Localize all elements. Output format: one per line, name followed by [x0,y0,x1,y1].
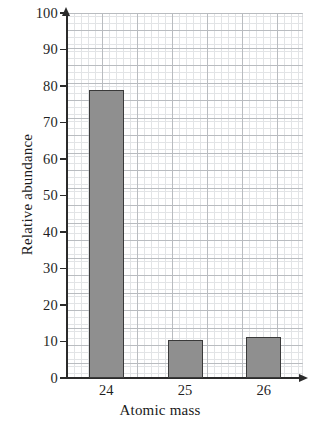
x-axis-arrow-icon [299,374,308,382]
y-axis-tick-label: 20 [43,298,58,313]
y-axis-tick [60,377,67,379]
y-axis-tick-label: 90 [43,42,58,57]
y-axis-tick [60,158,67,160]
y-axis-tick-label: 40 [43,225,58,240]
y-axis-tick-label: 80 [43,79,58,94]
y-axis-tick [60,85,67,87]
x-axis-tick-label: 24 [76,382,136,398]
y-axis-tick-label: 10 [43,334,58,349]
y-axis-tick [60,304,67,306]
bar-25 [168,340,203,378]
y-axis-tick [60,122,67,124]
y-axis-tick [60,231,67,233]
y-axis-tick-label: 30 [43,261,58,276]
y-axis-title: Relative abundance [19,95,36,295]
y-axis-tick [60,49,67,51]
y-axis-line [66,14,68,379]
bar-26 [246,337,281,378]
y-axis-tick-label: 0 [51,371,58,386]
x-axis-tick-label: 25 [155,382,215,398]
bar-chart: 0102030405060708090100 242526 Relative a… [0,0,320,428]
y-axis-tick [60,341,67,343]
y-axis-tick [60,12,67,14]
y-axis-tick-label: 50 [43,188,58,203]
y-axis-tick [60,268,67,270]
x-axis-tick-label: 26 [234,382,294,398]
y-axis-tick-label: 100 [36,6,58,21]
y-axis-tick-label: 60 [43,152,58,167]
x-axis-title: Atomic mass [0,402,320,419]
bar-24 [89,90,124,378]
y-axis-tick-label: 70 [43,115,58,130]
y-axis-tick [60,195,67,197]
